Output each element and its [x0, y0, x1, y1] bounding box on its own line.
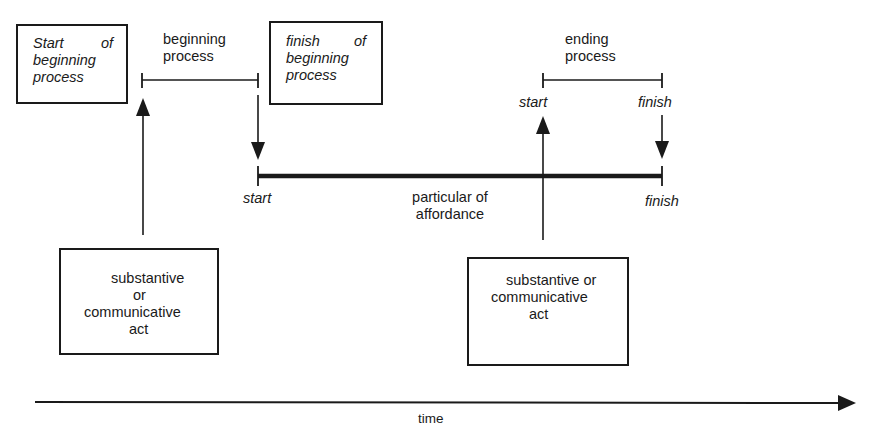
label-line: particular of [395, 189, 505, 206]
box-label: finish of beginning process [286, 33, 366, 84]
label-line: affordance [395, 206, 505, 223]
label-word: finish [286, 33, 320, 50]
beginning-finish-down-arrow-icon [251, 95, 265, 160]
label-line: process [33, 69, 113, 86]
left-up-arrow-icon [136, 98, 150, 235]
label-word: of [101, 35, 113, 52]
ending-process-bracket [543, 73, 662, 88]
label-line: ending [565, 31, 616, 48]
right-substantive-act-box: substantive or communicative act [467, 257, 629, 366]
ending-process-label: ending process [565, 31, 616, 65]
label-line: beginning [163, 31, 226, 48]
beginning-process-label: beginning process [163, 31, 226, 65]
affordance-start-label: start [243, 190, 271, 207]
box-label: substantive or communicative act [61, 270, 217, 338]
box-label: Start of beginning process [33, 35, 113, 86]
ending-finish-down-arrow-icon [655, 115, 669, 159]
label-line: substantive or [469, 272, 627, 289]
label-word: Start [33, 35, 64, 52]
affordance-finish-label: finish [645, 193, 679, 210]
label-line: process [163, 48, 226, 65]
label-line: act [61, 321, 217, 338]
beginning-process-bracket [142, 73, 258, 88]
label-line: process [286, 67, 366, 84]
label-line: communicative [469, 289, 627, 306]
affordance-bar [258, 166, 662, 186]
label-line: communicative [61, 304, 217, 321]
time-axis-arrow-icon [35, 395, 856, 411]
label-line: beginning [286, 50, 366, 67]
label-line: process [565, 48, 616, 65]
ending-process-start-label: start [519, 94, 547, 111]
ending-process-finish-label: finish [638, 94, 672, 111]
left-substantive-act-box: substantive or communicative act [59, 248, 219, 355]
box-label: substantive or communicative act [469, 272, 627, 323]
label-line: act [469, 306, 627, 323]
start-of-beginning-process-box: Start of beginning process [16, 24, 128, 104]
label-line: or [61, 287, 217, 304]
label-word: of [354, 33, 366, 50]
finish-of-beginning-process-box: finish of beginning process [269, 21, 383, 105]
affordance-label: particular of affordance [395, 189, 505, 223]
label-line: beginning [33, 52, 113, 69]
label-line: substantive [61, 270, 217, 287]
time-axis-label: time [418, 410, 444, 427]
